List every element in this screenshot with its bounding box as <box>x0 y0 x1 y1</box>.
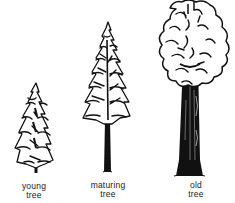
old-tree-label: old tree <box>166 181 226 199</box>
maturing-tree-label-line2: tree <box>78 190 138 199</box>
young-tree-label: young tree <box>4 182 64 200</box>
young-tree-label-line2: tree <box>4 191 64 200</box>
young-tree-icon <box>15 83 53 173</box>
tree-growth-illustration <box>0 0 235 203</box>
maturing-tree-label: maturing tree <box>78 181 138 199</box>
old-tree-icon <box>159 0 229 176</box>
old-tree-label-line2: tree <box>166 190 226 199</box>
maturing-tree-icon <box>83 22 130 172</box>
